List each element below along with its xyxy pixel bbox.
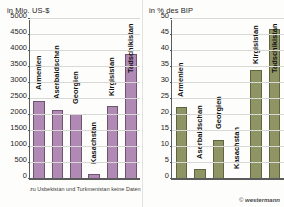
- y-axis-tick-label: 10: [144, 140, 172, 148]
- y-axis-tick-label: 500: [2, 156, 30, 164]
- y-axis-tick-label: 3000: [2, 76, 30, 84]
- y-axis-tick-mark: [28, 34, 31, 35]
- y-axis-tick-mark: [170, 66, 173, 67]
- bar-category-label: Armenien: [35, 56, 43, 91]
- gridline: [30, 114, 140, 115]
- gridline: [172, 162, 284, 163]
- publisher-credit: © westermann: [239, 197, 280, 203]
- gridline: [172, 98, 284, 99]
- y-axis-tick-label: 40: [144, 44, 172, 52]
- y-axis-tick-label: 5000: [2, 12, 30, 20]
- y-axis-tick-mark: [28, 50, 31, 51]
- bar-rect: [176, 107, 188, 179]
- y-axis-tick-mark: [28, 178, 31, 179]
- y-axis-tick-label: 5: [144, 156, 172, 164]
- bar-category-label: Georgien: [215, 96, 223, 129]
- bar-group-left: ArmenienAserbaidschanGeorgienKasachstanK…: [30, 20, 140, 179]
- gridline: [30, 82, 140, 83]
- y-axis-tick-mark: [28, 98, 31, 99]
- bar-armenien: Armenien: [33, 19, 44, 179]
- y-axis-tick-mark: [170, 162, 173, 163]
- bar-category-label: Kirgisistan: [109, 57, 117, 96]
- gridline: [172, 114, 284, 115]
- gridline: [30, 146, 140, 147]
- chart-panel-absolute: in Mio. US-$ ArmenienAserbaidschanGeorgi…: [0, 0, 142, 207]
- y-axis-tick-label: 35: [144, 60, 172, 68]
- bar-kirgisistan: Kirgisistan: [107, 19, 118, 179]
- y-axis-tick-mark: [170, 146, 173, 147]
- bar-georgien: Georgien: [70, 19, 81, 179]
- y-axis-tick-label: 0: [2, 172, 30, 180]
- bar-kirgisistan: Kirgisistan: [250, 19, 262, 179]
- gridline: [30, 178, 140, 179]
- y-axis-tick-label: 20: [144, 108, 172, 116]
- y-axis-tick-mark: [170, 82, 173, 83]
- bar-rect: [33, 101, 44, 179]
- y-axis-tick-label: 45: [144, 28, 172, 36]
- y-axis-tick-mark: [170, 34, 173, 35]
- bar-rect: [52, 110, 63, 179]
- plot-area-left: ArmenienAserbaidschanGeorgienKasachstanK…: [29, 20, 140, 180]
- y-axis-tick-label: 4500: [2, 28, 30, 36]
- bar-armenien: Armenien: [176, 19, 188, 179]
- y-axis-tick-label: 30: [144, 76, 172, 84]
- y-axis-tick-mark: [170, 114, 173, 115]
- y-axis-tick-mark: [28, 18, 31, 19]
- y-axis-tick-mark: [28, 130, 31, 131]
- chart-panel-percent: in % des BIP ArmenienAserbaidschanGeorgi…: [142, 0, 284, 207]
- gridline: [30, 34, 140, 35]
- plot-area-right: ArmenienAserbaidschanGeorgienKasachstanK…: [171, 20, 284, 180]
- bar-tadschikistan: Tadschikistan: [125, 19, 136, 179]
- y-axis-tick-mark: [28, 162, 31, 163]
- bar-group-right: ArmenienAserbaidschanGeorgienKasachstanK…: [172, 20, 284, 179]
- y-axis-tick-label: 1500: [2, 124, 30, 132]
- y-axis-tick-label: 1000: [2, 140, 30, 148]
- bar-aserbaidschan: Aserbaidschan: [194, 19, 206, 179]
- y-axis-tick-mark: [28, 82, 31, 83]
- y-axis-tick-label: 3500: [2, 60, 30, 68]
- bar-kasachstan: Kasachstan: [232, 19, 244, 179]
- bar-rect: [107, 106, 118, 179]
- chart-footnote: zu Usbekistan und Turkmenistan keine Dat…: [30, 186, 141, 192]
- y-axis-tick-label: 2000: [2, 108, 30, 116]
- gridline: [172, 66, 284, 67]
- y-axis-tick-mark: [28, 146, 31, 147]
- gridline: [172, 50, 284, 51]
- copyright-icon: ©: [239, 197, 243, 203]
- figure-container: in Mio. US-$ ArmenienAserbaidschanGeorgi…: [0, 0, 284, 207]
- bar-category-label: Kirgisistan: [252, 25, 260, 64]
- gridline: [30, 98, 140, 99]
- y-axis-tick-mark: [170, 50, 173, 51]
- gridline: [30, 50, 140, 51]
- gridline: [172, 34, 284, 35]
- bar-category-label: Kasachstan: [90, 122, 98, 164]
- gridline: [30, 18, 140, 19]
- y-axis-tick-mark: [170, 18, 173, 19]
- y-axis-tick-mark: [28, 114, 31, 115]
- bar-tadschikistan: Tadschikistan: [269, 19, 281, 179]
- gridline: [172, 146, 284, 147]
- gridline: [172, 18, 284, 19]
- publisher-name: westermann: [245, 197, 280, 203]
- y-axis-tick-label: 0: [144, 172, 172, 180]
- bar-kasachstan: Kasachstan: [88, 19, 99, 179]
- bar-category-label: Armenien: [178, 62, 186, 97]
- y-axis-tick-mark: [170, 178, 173, 179]
- y-axis-tick-label: 25: [144, 92, 172, 100]
- bar-georgien: Georgien: [213, 19, 225, 179]
- bar-category-label: Aserbaidschan: [54, 45, 62, 99]
- gridline: [172, 130, 284, 131]
- y-axis-tick-label: 2500: [2, 92, 30, 100]
- y-axis-tick-mark: [28, 66, 31, 67]
- gridline: [30, 162, 140, 163]
- gridline: [30, 130, 140, 131]
- gridline: [172, 82, 284, 83]
- gridline: [30, 66, 140, 67]
- bar-aserbaidschan: Aserbaidschan: [52, 19, 63, 179]
- y-axis-tick-label: 4000: [2, 44, 30, 52]
- y-axis-tick-label: 50: [144, 12, 172, 20]
- y-axis-tick-label: 15: [144, 124, 172, 132]
- y-axis-tick-mark: [170, 130, 173, 131]
- panel-divider: [142, 0, 143, 207]
- gridline: [172, 178, 284, 179]
